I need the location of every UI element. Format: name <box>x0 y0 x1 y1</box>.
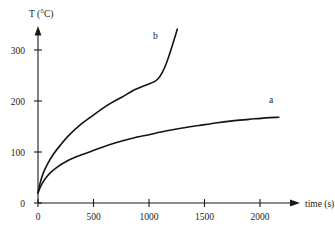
y-tick-group: 0 100 200 300 <box>11 46 42 209</box>
x-axis: time (s) <box>38 199 334 210</box>
x-tick-label: 1000 <box>140 212 159 222</box>
x-tick-label: 1500 <box>195 212 214 222</box>
curve-series-a <box>38 117 279 192</box>
x-tick-label: 500 <box>86 212 101 222</box>
y-tick-label: 200 <box>11 97 26 107</box>
chart-page: T (°C) time (s) 0 100 200 300 0 500 <box>0 0 335 243</box>
y-axis-arrow-icon <box>35 26 42 36</box>
y-tick-label: 100 <box>11 148 26 158</box>
curve-series-b <box>38 29 177 193</box>
x-tick-label: 0 <box>36 212 41 222</box>
x-tick-label: 2000 <box>251 212 270 222</box>
temperature-vs-time-chart: T (°C) time (s) 0 100 200 300 0 500 <box>0 0 335 243</box>
data-curves <box>38 29 279 193</box>
curve-label-a: a <box>269 95 274 105</box>
y-axis-title: T (°C) <box>29 9 53 20</box>
y-tick-label: 300 <box>11 46 26 56</box>
curve-label-group: a b <box>153 31 274 105</box>
y-tick-label: 0 <box>20 199 25 209</box>
curve-label-b: b <box>153 31 158 41</box>
x-axis-arrow-icon <box>290 199 300 206</box>
x-axis-title: time (s) <box>305 199 334 210</box>
